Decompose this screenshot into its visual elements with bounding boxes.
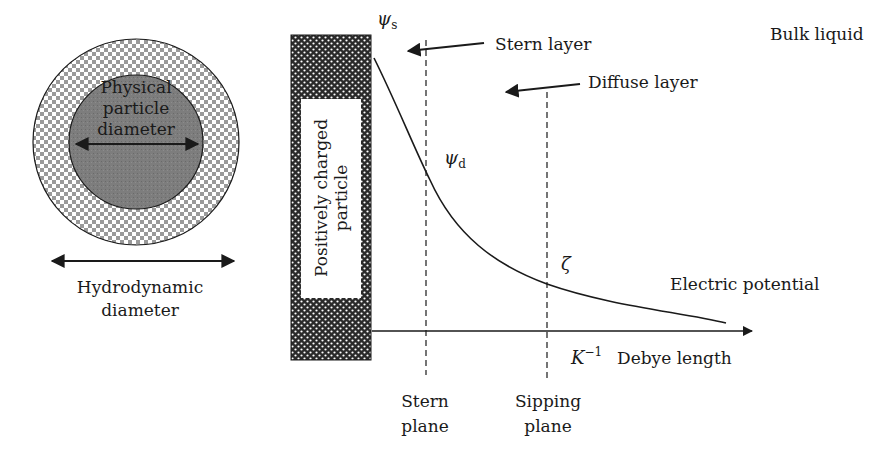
psi-s-label: ψs: [377, 8, 397, 32]
psi-d-label: ψd: [444, 147, 466, 171]
inner-label-line-2: particle: [103, 98, 169, 118]
stern-plane-label-line-2: plane: [401, 416, 448, 436]
outer-label-line-1: Hydrodynamic: [77, 277, 203, 297]
debye-length-label: Debye length: [617, 348, 732, 368]
particle-label-line-1: Positively charged: [311, 119, 331, 277]
outer-label-line-2: diameter: [101, 300, 180, 320]
zeta-label: ζ: [561, 253, 572, 274]
diffuse-layer-arrow: [506, 84, 580, 92]
debye-symbol: K−1: [570, 345, 602, 368]
slipping-plane-label-line-1: Sipping: [515, 391, 581, 411]
diffuse-layer-label: Diffuse layer: [588, 72, 699, 92]
particle-label-line-2: particle: [331, 165, 351, 231]
inner-label-line-1: Physical: [100, 77, 171, 97]
slipping-plane-label-line-2: plane: [524, 416, 571, 436]
charged-particle-wall: Positively charged particle: [291, 35, 371, 360]
electric-double-layer-diagram: Physical particle diameter Hydrodynamic …: [0, 0, 891, 462]
stern-layer-label: Stern layer: [495, 34, 592, 54]
stern-plane-label-line-1: Stern: [401, 391, 449, 411]
inner-label-line-3: diameter: [97, 119, 176, 139]
stern-layer-arrow: [408, 43, 484, 51]
bulk-liquid-label: Bulk liquid: [770, 24, 864, 44]
hydrodynamic-particle: Physical particle diameter Hydrodynamic …: [33, 39, 239, 320]
electric-potential-label: Electric potential: [670, 274, 820, 294]
